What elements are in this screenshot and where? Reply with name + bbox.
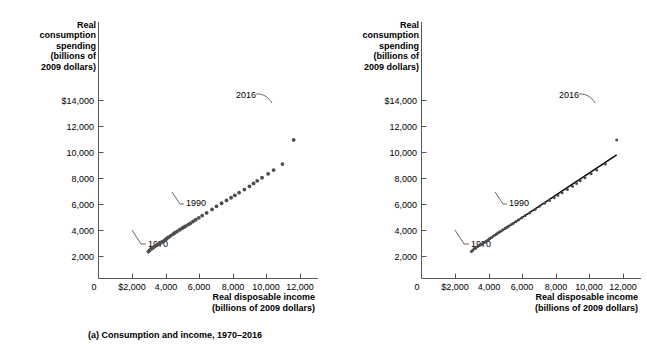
panel-a-leader-lines [132,94,272,244]
data-point [579,179,582,182]
panel-b-leader-lines [455,94,595,244]
panel-a-data-points [147,138,296,253]
data-point [520,216,523,219]
data-point [515,220,518,223]
data-point [543,202,546,205]
data-point [248,184,252,188]
data-point [512,222,515,225]
panel-a-caption: (a) Consumption and income, 1970–2016 [88,330,262,340]
data-point [615,138,618,141]
data-point [233,193,237,197]
panel-b-axis-lines [422,22,642,279]
data-point [242,188,246,192]
data-point [499,230,502,233]
data-point [292,138,296,142]
panel-b-the-consumption-function: Real consumption spending (billions of 2… [323,0,647,352]
data-point [205,211,209,215]
panel-a-x-tickmarks [133,274,301,279]
data-point [210,208,214,212]
data-point [517,218,520,221]
data-point [538,205,541,208]
data-point [553,196,556,199]
data-point [595,169,598,172]
data-point [266,172,270,176]
data-point [220,201,224,205]
data-point [237,191,241,195]
figure-consumption-function: Real consumption spending (billions of 2… [0,0,647,352]
data-point [528,211,531,214]
data-point [584,176,587,179]
panel-a-consumption-and-income: Real consumption spending (billions of 2… [0,0,324,352]
data-point [215,204,219,208]
data-point [272,168,276,172]
panel-b-y-tickmarks [422,101,427,257]
panel-b-data-points [470,138,618,253]
data-point [604,163,607,166]
panel-b-x-tickmarks [456,274,624,279]
data-point [534,208,537,211]
data-point [507,225,510,228]
data-point [548,199,551,202]
data-point [252,182,256,186]
panel-b-plot [323,0,647,352]
data-point [229,196,233,200]
data-point [556,194,559,197]
panel-a-plot [0,0,324,352]
data-point [200,214,204,218]
data-point [197,216,201,220]
data-point [590,172,593,175]
data-point [524,214,527,217]
panel-a-y-tickmarks [99,101,104,257]
data-point [566,188,569,191]
data-point [575,182,578,185]
data-point [225,199,229,203]
panel-a-axis-lines [99,22,319,279]
data-point [571,185,574,188]
data-point [260,176,264,180]
data-point [561,191,564,194]
data-point [281,162,285,166]
data-point [255,179,259,183]
